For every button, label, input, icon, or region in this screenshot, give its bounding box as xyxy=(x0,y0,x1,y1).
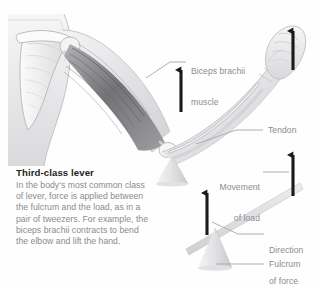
label-biceps-line2: muscle xyxy=(191,97,245,107)
label-movement-line1: Movement xyxy=(198,182,260,192)
label-direction-line2: of force xyxy=(269,276,303,286)
label-tendon: Tendon xyxy=(268,125,297,135)
label-biceps-brachii-muscle: Biceps brachii muscle xyxy=(191,45,245,128)
illustration-canvas: Biceps brachii muscle Tendon Movement of… xyxy=(0,0,315,286)
label-movement-of-load: Movement of load xyxy=(198,161,260,244)
label-direction-line1: Direction xyxy=(269,245,303,255)
caption-title: Third-class lever xyxy=(16,167,94,178)
fist-hand xyxy=(265,26,305,79)
label-fulcrum: Fulcrum xyxy=(269,259,300,269)
label-biceps-line1: Biceps brachii xyxy=(191,66,245,76)
caption-body: In the body's most common class of lever… xyxy=(16,180,148,247)
label-movement-line2: of load xyxy=(198,213,260,223)
label-direction-of-force: Direction of force xyxy=(269,224,303,286)
